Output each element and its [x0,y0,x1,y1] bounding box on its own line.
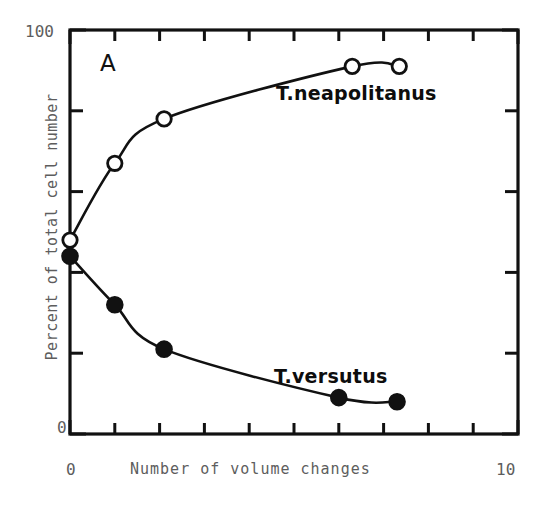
x-axis-tick-label-min: 0 [66,460,76,479]
y-axis-title: Percent of total cell number [43,87,61,367]
x-axis-title: Number of volume changes [130,460,371,478]
plot-area [0,0,544,507]
series-label-versutus: T.versutus [274,365,388,387]
y-axis-tick-label-max: 100 [25,22,54,41]
figure-panel-a: 100 0 0 10 Percent of total cell number … [0,0,544,507]
panel-letter: A [100,50,116,76]
x-axis-tick-label-max: 10 [496,460,515,479]
y-axis-tick-label-min: 0 [57,418,67,437]
series-label-neapolitanus: T.neapolitanus [276,82,437,104]
data-series [62,59,406,410]
